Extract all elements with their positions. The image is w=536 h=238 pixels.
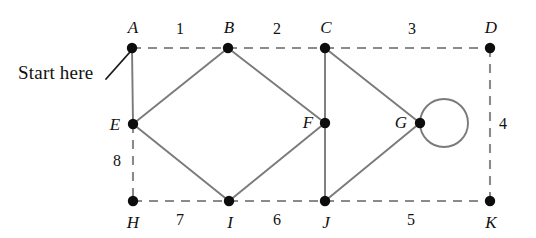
edge-weight-b-c: 2: [273, 21, 281, 37]
edge-weight-c-d: 3: [408, 21, 416, 37]
graph-svg: [0, 0, 536, 238]
node-c[interactable]: [320, 43, 330, 53]
self-loop-g: [420, 99, 468, 147]
node-a[interactable]: [127, 43, 137, 53]
node-label-k: K: [485, 214, 496, 231]
node-label-g: G: [395, 114, 407, 131]
node-label-e: E: [110, 116, 120, 133]
diagram-canvas: 12345678ABCDEFGHIJKStart here: [0, 0, 536, 238]
start-here-pointer: [106, 52, 130, 79]
edge-weight-j-k: 5: [407, 212, 415, 228]
edge-weight-a-b: 1: [176, 21, 184, 37]
edge-a-e: [132, 48, 133, 124]
node-label-a: A: [128, 19, 138, 36]
node-label-d: D: [485, 19, 497, 36]
start-pointer-group: [106, 52, 130, 79]
start-here-label: Start here: [18, 63, 93, 82]
solid-edges-group: [132, 48, 420, 201]
node-label-j: J: [322, 214, 330, 231]
edge-weight-e-h: 8: [113, 153, 121, 169]
node-f[interactable]: [320, 118, 330, 128]
node-b[interactable]: [223, 43, 233, 53]
node-label-f: F: [303, 114, 313, 131]
edge-weight-h-i: 7: [176, 212, 184, 228]
node-label-b: B: [224, 19, 234, 36]
node-e[interactable]: [128, 119, 138, 129]
node-k[interactable]: [485, 196, 495, 206]
self-loops-group: [420, 99, 468, 147]
edge-j-g: [325, 123, 420, 201]
node-g[interactable]: [415, 118, 425, 128]
edge-e-i: [133, 124, 229, 201]
node-label-i: I: [227, 214, 233, 231]
edge-i-f: [229, 123, 325, 201]
edge-e-b: [133, 48, 228, 124]
node-label-c: C: [320, 19, 331, 36]
node-label-h: H: [127, 214, 139, 231]
node-d[interactable]: [485, 43, 495, 53]
node-i[interactable]: [224, 196, 234, 206]
edge-weight-d-k: 4: [499, 116, 507, 132]
node-h[interactable]: [128, 196, 138, 206]
edge-weight-i-j: 6: [273, 212, 281, 228]
node-j[interactable]: [320, 196, 330, 206]
